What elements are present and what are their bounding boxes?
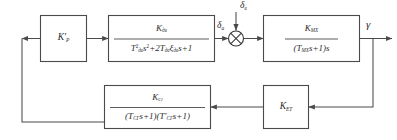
- actuator-output-signal-label: δа: [217, 21, 224, 31]
- output-signal-label: γ: [366, 19, 370, 30]
- disturbance-input-signal-label: δв: [240, 1, 247, 11]
- plant-numerator: KМХ: [264, 24, 359, 33]
- sensor-gain-block-label: KЕТ: [263, 102, 309, 112]
- controller-gain-block-label: K'Р: [40, 33, 87, 43]
- block-diagram-canvas: K'Р Kдв T2двs2+2Tдвξдвs+1 KМХ (TМХs+1)s …: [0, 0, 397, 140]
- plant-transfer-block-rect[interactable]: [264, 16, 360, 62]
- feedback-filter-denominator: (TСГs+1)(T'СГs+1): [105, 112, 210, 121]
- plant-denominator: (TМХs+1)s: [264, 44, 359, 53]
- actuator-numerator: Kдв: [109, 24, 214, 33]
- actuator-denominator: T2двs2+2Tдвξдвs+1: [109, 44, 214, 53]
- feedback-filter-numerator: Kсг: [105, 93, 210, 102]
